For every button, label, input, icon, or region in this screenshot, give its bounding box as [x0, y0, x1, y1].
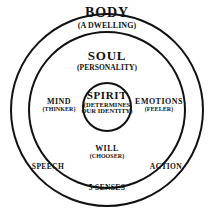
- label-soul-title: SOUL: [0, 49, 214, 63]
- label-will-subtitle: (CHOOSER): [72, 153, 142, 159]
- label-emotions-title: EMOTIONS: [133, 98, 185, 106]
- label-mind-title: MIND: [37, 98, 81, 106]
- body-soul-spirit-diagram: BODY (A DWELLING) SOUL (PERSONALITY) SPI…: [0, 0, 214, 218]
- label-soul: SOUL (PERSONALITY): [0, 49, 214, 72]
- label-will: WILL (CHOOSER): [72, 145, 142, 160]
- label-action: ACTION: [142, 163, 190, 171]
- label-will-title: WILL: [72, 145, 142, 153]
- label-speech: SPEECH: [24, 163, 72, 171]
- label-soul-subtitle: (PERSONALITY): [0, 64, 214, 72]
- label-emotions-subtitle: (FEELER): [133, 106, 185, 112]
- label-spirit: SPIRIT (DETERMINES OUR IDENTITY): [72, 90, 142, 115]
- label-body: BODY (A DWELLING): [0, 6, 214, 30]
- label-mind: MIND (THINKER): [37, 98, 81, 113]
- label-body-subtitle: (A DWELLING): [0, 22, 214, 30]
- label-emotions: EMOTIONS (FEELER): [133, 98, 185, 113]
- label-mind-subtitle: (THINKER): [37, 106, 81, 112]
- label-spirit-subtitle-line2: OUR IDENTITY): [72, 108, 142, 115]
- label-spirit-title: SPIRIT: [72, 90, 142, 102]
- label-body-title: BODY: [0, 6, 214, 21]
- label-five-senses: 5 SENSES: [0, 184, 214, 192]
